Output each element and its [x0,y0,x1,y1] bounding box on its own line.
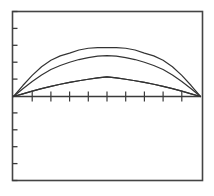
figure-container [0,0,214,196]
plot-canvas [0,0,214,196]
